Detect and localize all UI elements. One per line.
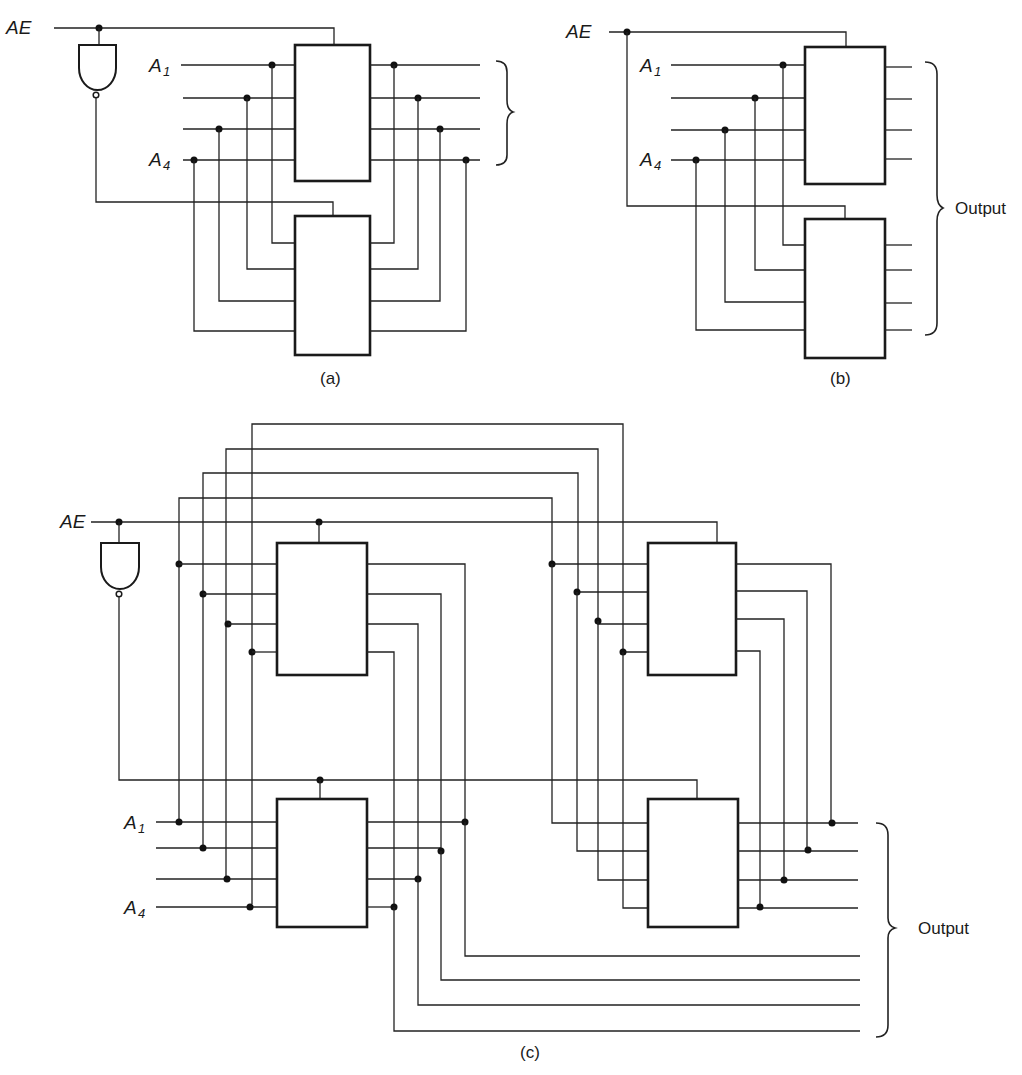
memory-block-c-bottom-right bbox=[648, 799, 738, 927]
brace-icon bbox=[925, 62, 943, 335]
panel-a: AE A 1 A 4 (a) bbox=[5, 17, 513, 388]
caption-b: (b) bbox=[830, 369, 851, 388]
svg-text:4: 4 bbox=[138, 906, 145, 921]
svg-text:A: A bbox=[123, 812, 137, 833]
svg-text:4: 4 bbox=[163, 158, 170, 173]
brace-icon bbox=[876, 823, 895, 1037]
memory-block-b-lower bbox=[805, 219, 885, 358]
label-ae-a: AE bbox=[5, 17, 32, 38]
svg-text:1: 1 bbox=[138, 821, 145, 836]
label-ae-b: AE bbox=[565, 21, 592, 42]
svg-text:1: 1 bbox=[163, 64, 170, 79]
caption-c: (c) bbox=[520, 1043, 540, 1062]
svg-text:A: A bbox=[639, 149, 653, 170]
output-label-b: Output bbox=[955, 199, 1006, 218]
memory-block-a-lower bbox=[295, 216, 370, 355]
circuit-figure: AE A 1 A 4 (a) bbox=[0, 0, 1022, 1075]
svg-text:A: A bbox=[123, 897, 137, 918]
caption-a: (a) bbox=[320, 369, 341, 388]
panel-b: AE A 1 A 4 Output (b) bbox=[565, 21, 1006, 388]
svg-text:A: A bbox=[148, 149, 162, 170]
panel-c: AE A 1 A 4 bbox=[59, 424, 969, 1062]
memory-block-b-upper bbox=[805, 47, 885, 184]
output-label-c: Output bbox=[918, 919, 969, 938]
svg-text:1: 1 bbox=[654, 64, 661, 79]
nand-gate-icon bbox=[79, 45, 116, 90]
memory-block-c-top-left bbox=[277, 543, 367, 675]
label-ae-c: AE bbox=[59, 511, 86, 532]
nand-gate-icon bbox=[101, 543, 139, 589]
svg-text:A: A bbox=[148, 55, 162, 76]
memory-block-c-top-right bbox=[648, 543, 736, 675]
svg-text:4: 4 bbox=[654, 158, 661, 173]
memory-block-a-upper bbox=[295, 45, 370, 181]
brace-icon bbox=[496, 61, 513, 165]
memory-block-c-bottom-left bbox=[277, 799, 367, 927]
svg-text:A: A bbox=[639, 55, 653, 76]
